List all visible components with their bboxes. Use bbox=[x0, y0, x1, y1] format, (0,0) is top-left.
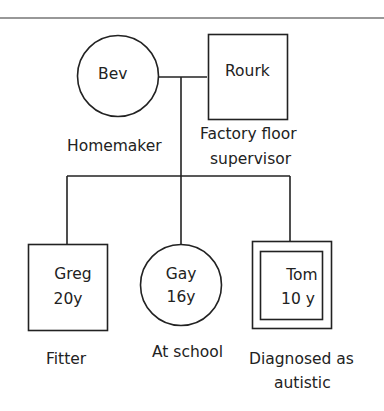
tom-outer-square bbox=[253, 242, 332, 329]
greg-age: 20y bbox=[28, 289, 108, 309]
tom-role-line1: Diagnosed as bbox=[249, 349, 354, 369]
gay-name: Gay bbox=[141, 264, 221, 284]
bev-name: Bev bbox=[98, 64, 127, 84]
bev-role: Homemaker bbox=[67, 136, 162, 156]
gay-role: At school bbox=[152, 342, 223, 362]
tom-name: Tom bbox=[262, 265, 342, 285]
rourk-role-line2: supervisor bbox=[210, 149, 291, 169]
tom-inner-square bbox=[261, 252, 323, 320]
rourk-name: Rourk bbox=[225, 61, 270, 81]
gay-age: 16y bbox=[141, 287, 221, 307]
greg-square bbox=[29, 245, 108, 331]
greg-name: Greg bbox=[28, 264, 118, 284]
tom-role-line2: autistic bbox=[274, 373, 331, 393]
rourk-role-line1: Factory floor bbox=[200, 124, 297, 144]
gay-circle bbox=[141, 245, 222, 326]
tom-age: 10 y bbox=[258, 289, 338, 309]
greg-role: Fitter bbox=[46, 349, 86, 369]
